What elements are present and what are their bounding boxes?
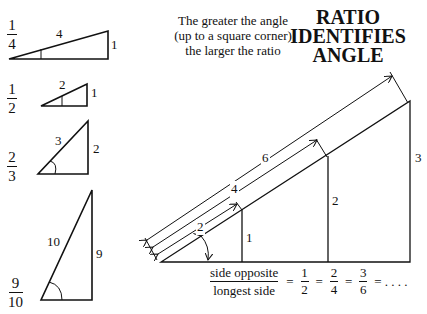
ratio-num: 2 <box>8 150 16 164</box>
opp-label: 1 <box>111 37 118 53</box>
ratio-num: 9 <box>12 276 20 290</box>
ratio-1-4: 14 <box>7 18 17 51</box>
hyp-label: 4 <box>56 26 63 42</box>
num: 2 <box>331 266 338 280</box>
hyp-label: 10 <box>47 234 60 250</box>
ratio-num: 1 <box>8 82 16 96</box>
equals-sign: = <box>286 274 293 290</box>
equals-sign: = <box>316 274 323 290</box>
opp-label-1: 1 <box>246 230 253 246</box>
num: 3 <box>360 266 367 280</box>
hyp-label-2: 2 <box>196 219 205 235</box>
fraction: 24 <box>330 266 338 297</box>
ratio-den: 10 <box>8 295 23 309</box>
title-line: ANGLE <box>288 46 408 65</box>
equals-sign: = <box>345 274 352 290</box>
ratio-9-10: 910 <box>8 276 23 309</box>
fraction: 12 <box>301 266 309 297</box>
caption-line: The greater the angle <box>173 13 293 28</box>
caption: The greater the angle (up to a square co… <box>173 13 293 58</box>
den: 2 <box>301 283 308 297</box>
page-title: RATIO IDENTIFIES ANGLE <box>288 8 408 65</box>
hyp-label-4: 4 <box>230 181 239 197</box>
ratio-equation: side opposite longest side = 12 = 24 = 3… <box>210 265 411 298</box>
opp-label: 2 <box>93 141 100 157</box>
num: 1 <box>301 266 308 280</box>
denominator: longest side <box>213 283 275 298</box>
numerator: side opposite <box>210 265 278 280</box>
den: 6 <box>360 283 367 297</box>
big-triangle <box>161 101 410 262</box>
ellipsis: = . . . . <box>374 274 407 290</box>
caption-line: (up to a square corner) <box>173 28 293 43</box>
opp-label: 1 <box>91 85 98 101</box>
hyp-label: 3 <box>55 133 62 149</box>
opp-label: 9 <box>96 246 103 262</box>
ratio-1-2: 12 <box>7 82 17 115</box>
ratio-den: 3 <box>8 169 16 183</box>
ratio-2-3: 23 <box>7 150 17 183</box>
caption-line: the larger the ratio <box>173 43 293 58</box>
opp-label-3: 3 <box>415 150 422 166</box>
hyp-label-6: 6 <box>261 150 270 166</box>
fraction: 36 <box>359 266 367 297</box>
side-ratio-fraction: side opposite longest side <box>210 265 278 298</box>
den: 4 <box>331 283 338 297</box>
ratio-num: 1 <box>8 18 16 32</box>
ratio-den: 4 <box>8 37 16 51</box>
hyp-label: 2 <box>59 77 66 93</box>
ratio-den: 2 <box>8 101 16 115</box>
opp-label-2: 2 <box>332 193 339 209</box>
triangle-2-3 <box>38 121 88 174</box>
